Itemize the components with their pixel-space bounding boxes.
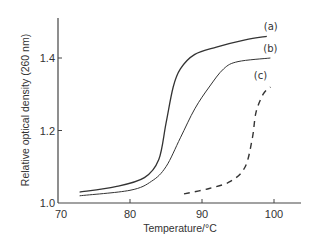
x-ticks: 708090100	[55, 199, 283, 220]
series-line-0	[80, 36, 267, 192]
series-line-2	[184, 87, 270, 194]
y-ticks: 1.01.21.4	[40, 52, 62, 209]
series-label: (b)	[263, 43, 277, 54]
x-axis-label: Temperature/°C	[143, 222, 217, 234]
y-tick-label: 1.0	[40, 197, 55, 209]
series-label: (a)	[264, 21, 278, 32]
y-axis: 1.01.21.4	[40, 18, 62, 209]
y-tick-label: 1.4	[40, 52, 55, 64]
y-axis-label: Relative optical density (260 nm)	[19, 34, 31, 186]
x-tick-label: 80	[124, 208, 136, 220]
x-tick-label: 100	[265, 208, 283, 220]
x-tick-label: 90	[196, 208, 208, 220]
series-line-1	[80, 58, 271, 196]
chart: 1.01.21.4 708090100 Temperature/°C Relat…	[0, 0, 317, 239]
data-series: (a)(b)(c)	[80, 21, 278, 196]
x-tick-label: 70	[55, 208, 67, 220]
y-tick-label: 1.2	[40, 125, 55, 137]
x-axis: 708090100	[55, 199, 301, 220]
series-label: (c)	[254, 70, 267, 81]
